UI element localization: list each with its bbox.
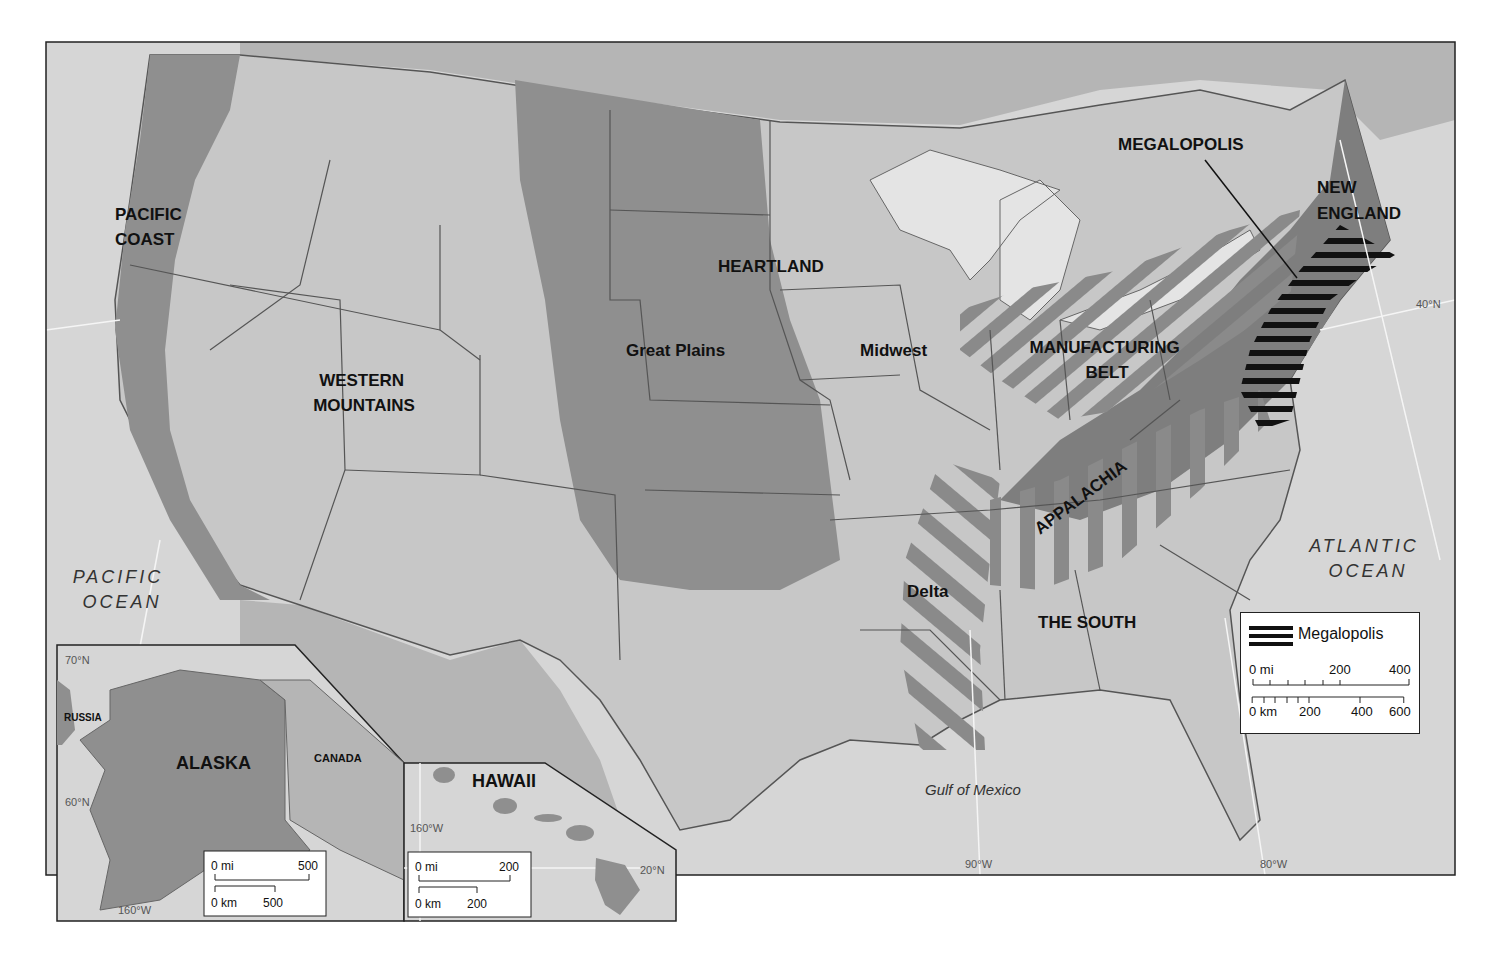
label-gulf-of-mexico: Gulf of Mexico xyxy=(925,781,1021,798)
scale-mi-200: 200 xyxy=(1329,662,1351,677)
label-lat-40n: 40°N xyxy=(1416,298,1441,310)
label-great-plains: Great Plains xyxy=(626,341,725,360)
label-alaska: ALASKA xyxy=(176,753,251,773)
us-regions-map: PACIFIC COAST WESTERN MOUNTAINS HEARTLAN… xyxy=(0,0,1499,955)
label-midwest: Midwest xyxy=(860,341,927,360)
label-russia: RUSSIA xyxy=(64,712,102,723)
label-megalopolis: MEGALOPOLIS xyxy=(1118,135,1244,154)
hawaii-scale-km-zero: 0 km xyxy=(415,897,441,911)
label-hawaii: HAWAII xyxy=(472,771,536,791)
hawaii-scale-km-200: 200 xyxy=(467,897,487,911)
hawaii-scale-mi-200: 200 xyxy=(499,860,519,874)
alaska-scale-km-zero: 0 km xyxy=(211,896,237,910)
alaska-scale-mi-500: 500 xyxy=(298,859,318,873)
legend-megalopolis-label: Megalopolis xyxy=(1298,625,1383,643)
label-canada: CANADA xyxy=(314,752,362,764)
label-lat-60n: 60°N xyxy=(65,796,90,808)
scale-mi-zero: 0 mi xyxy=(1249,662,1274,677)
scale-km-400: 400 xyxy=(1351,704,1373,719)
legend: Megalopolis 0 mi 200 400 0 km 200 400 60… xyxy=(1240,612,1420,734)
label-lat-20n: 20°N xyxy=(640,864,665,876)
hawaii-scale-mi-zero: 0 mi xyxy=(415,860,438,874)
megalopolis-swatch-icon xyxy=(1249,626,1293,648)
label-lon-160w-alaska: 160°W xyxy=(118,904,152,916)
alaska-scale-km-500: 500 xyxy=(263,896,283,910)
scale-km-zero: 0 km xyxy=(1249,704,1277,719)
label-delta: Delta xyxy=(907,582,949,601)
scale-km-600: 600 xyxy=(1389,704,1411,719)
label-lon-80w: 80°W xyxy=(1260,858,1288,870)
label-lon-90w: 90°W xyxy=(965,858,993,870)
label-lat-70n: 70°N xyxy=(65,654,90,666)
scale-mi-400: 400 xyxy=(1389,662,1411,677)
label-heartland: HEARTLAND xyxy=(718,257,824,276)
alaska-scale-mi-zero: 0 mi xyxy=(211,859,234,873)
label-lon-160w-hawaii: 160°W xyxy=(410,822,444,834)
scale-km-200: 200 xyxy=(1299,704,1321,719)
label-the-south: THE SOUTH xyxy=(1038,613,1136,632)
